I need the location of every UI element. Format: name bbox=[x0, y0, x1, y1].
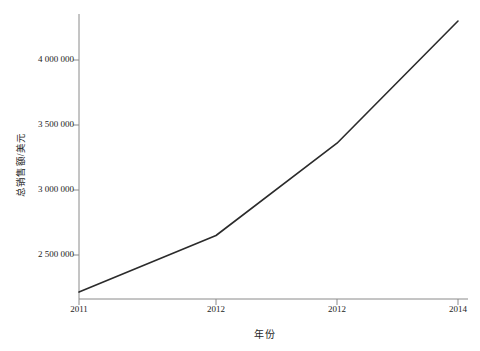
x-axis-title: 年份 bbox=[0, 326, 480, 341]
x-tick-label: 2012 bbox=[307, 304, 367, 314]
y-axis-title: 总销售额/美元 bbox=[14, 110, 28, 220]
x-tick-label: 2014 bbox=[428, 304, 480, 314]
x-tick-label: 2011 bbox=[49, 304, 109, 314]
line-chart: 4 000 000 3 500 000 3 000 000 2 500 000 … bbox=[0, 0, 480, 351]
x-axis-tick-labels: 2011 2012 2012 2014 bbox=[0, 0, 480, 351]
x-tick-label: 2012 bbox=[186, 304, 246, 314]
